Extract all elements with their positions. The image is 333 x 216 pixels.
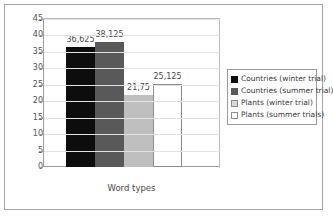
x-axis-label: Word types [43,183,220,193]
y-axis: 454035302520151050 [5,5,43,175]
legend-swatch-icon [231,76,238,83]
gridline [44,52,220,53]
y-axis-tick-mark [39,167,43,168]
bar-value-label: 25,125 [147,73,188,81]
y-axis-tick-mark [39,151,43,152]
legend-item[interactable]: Plants (winter trial) [231,97,313,109]
legend-swatch-icon [231,112,238,119]
y-axis-tick-mark [39,68,43,69]
legend-item[interactable]: Countries (winter trial) [231,73,313,85]
gridline [44,68,220,69]
y-axis-tick-mark [39,85,43,86]
legend-item[interactable]: Plants (summer trials) [231,109,313,121]
y-axis-tick-mark [39,19,43,20]
y-axis-tick-mark [39,118,43,119]
legend-swatch-icon [231,88,238,95]
y-axis-tick-mark [39,35,43,36]
y-axis-tick-mark [39,101,43,102]
gridline [44,151,220,152]
legend-swatch-icon [231,100,238,107]
bar-group: 36,62538,12521,7525,125 [44,19,220,167]
gridline [44,35,220,36]
legend-item-label: Countries (winter trial) [241,75,326,83]
bar [124,95,153,167]
y-axis-tick-mark [39,52,43,53]
y-axis-tick-mark [39,134,43,135]
bar [95,42,124,167]
legend-item[interactable]: Countries (summer trial) [231,85,313,97]
gridline [44,19,220,20]
legend-item-label: Countries (summer trial) [241,87,333,95]
gridline [44,118,220,119]
bar [153,84,182,167]
chart-legend: Countries (winter trial)Countries (summe… [227,69,317,125]
bar [66,47,95,167]
chart-figure: 454035302520151050 36,62538,12521,7525,1… [4,4,323,210]
gridline [44,85,220,86]
gridline [44,134,220,135]
gridline [44,101,220,102]
legend-item-label: Plants (winter trial) [241,99,313,107]
legend-item-label: Plants (summer trials) [241,111,324,119]
